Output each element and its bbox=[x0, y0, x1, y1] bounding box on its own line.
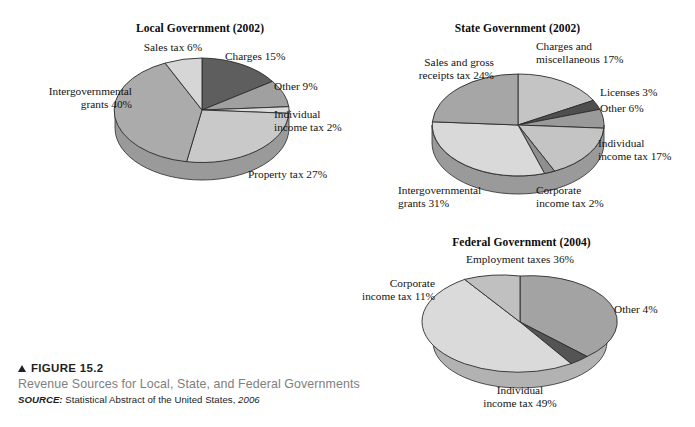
pie-federal-label-corporate-income-tax: Corporate income tax 11% bbox=[340, 277, 435, 303]
pie-local-wedges bbox=[114, 58, 289, 163]
pie-local-label-property-tax: Property tax 27% bbox=[248, 168, 378, 181]
pie-state-label-charges-misc: Charges and miscellaneous 17% bbox=[536, 40, 676, 66]
figure-caption: FIGURE 15.2 Revenue Sources for Local, S… bbox=[18, 362, 438, 405]
source-year: 2006 bbox=[238, 394, 260, 405]
pie-local-label-intergovernmental-grants: Intergovernmental grants 40% bbox=[10, 85, 132, 111]
pie-local bbox=[113, 52, 291, 182]
pie-state-label-intergovernmental-grants: Intergovernmental grants 31% bbox=[398, 184, 523, 210]
figure-15-2: Local Government (2002) bbox=[0, 0, 695, 427]
triangle-up-icon bbox=[18, 365, 26, 372]
figure-source: SOURCE: Statistical Abstract of the Unit… bbox=[18, 394, 438, 405]
pie-local-label-charges: Charges 15% bbox=[225, 50, 345, 63]
pie-state-wedges bbox=[432, 74, 604, 176]
pie-federal-label-individual-income-tax: Individual income tax 49% bbox=[450, 384, 590, 410]
chart-title-federal: Federal Government (2004) bbox=[424, 236, 619, 248]
figure-label: FIGURE 15.2 bbox=[31, 362, 103, 374]
figure-label-line: FIGURE 15.2 bbox=[18, 362, 438, 374]
figure-title: Revenue Sources for Local, State, and Fe… bbox=[18, 377, 438, 391]
pie-local-label-individual-income-tax: Individual income tax 2% bbox=[274, 108, 384, 134]
pie-state-label-corporate-income-tax: Corporate income tax 2% bbox=[536, 184, 636, 210]
pie-state bbox=[430, 68, 606, 196]
pie-local-label-sales-tax: Sales tax 6% bbox=[118, 41, 228, 54]
source-text: Statistical Abstract of the United State… bbox=[65, 394, 235, 405]
pie-state-label-licenses: Licenses 3% bbox=[600, 86, 695, 99]
pie-state-label-other: Other 6% bbox=[600, 102, 695, 115]
chart-title-state: State Government (2002) bbox=[420, 22, 615, 34]
pie-state-label-individual-income-tax: Individual income tax 17% bbox=[598, 137, 695, 163]
source-prefix: SOURCE: bbox=[18, 394, 63, 405]
pie-state-label-sales-gross-receipts: Sales and gross receipts tax 24% bbox=[368, 56, 494, 82]
pie-federal-label-employment-taxes: Employment taxes 36% bbox=[425, 253, 615, 266]
chart-title-local: Local Government (2002) bbox=[105, 22, 295, 34]
pie-federal bbox=[431, 270, 609, 384]
pie-federal-label-other: Other 4% bbox=[614, 303, 695, 316]
pie-local-label-other: Other 9% bbox=[274, 80, 374, 93]
